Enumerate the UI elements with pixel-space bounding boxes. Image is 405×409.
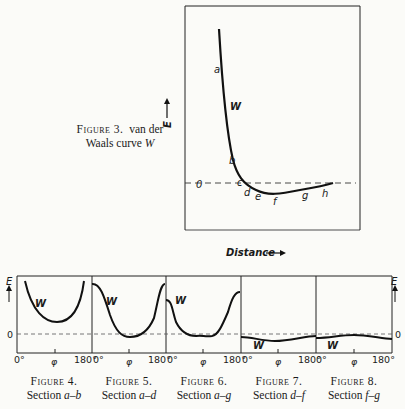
figure-number: Figure 7. — [240, 374, 318, 388]
section-range: a–g — [214, 389, 231, 401]
svg-text:W: W — [253, 340, 265, 351]
panel-caption-6: Figure 6. Section a–g — [165, 374, 243, 402]
svg-text:E: E — [162, 121, 173, 128]
svg-text:φ: φ — [51, 356, 58, 367]
svg-text:c: c — [237, 177, 243, 188]
svg-text:b: b — [229, 155, 235, 166]
figure-canvas: a W b c d e f g h 0 E Distance — [0, 0, 405, 409]
svg-text:0°: 0° — [316, 354, 327, 365]
figure-number: Figure 5. — [90, 374, 168, 388]
section-range: d–f — [290, 389, 305, 401]
svg-text:d: d — [244, 187, 251, 198]
svg-text:φ: φ — [126, 356, 133, 367]
svg-text:W: W — [175, 295, 187, 306]
section-word: Section — [102, 389, 137, 401]
section-word: Section — [328, 389, 363, 401]
svg-text:180°: 180° — [372, 354, 395, 365]
panel-caption-7: Figure 7. Section d–f — [240, 374, 318, 402]
svg-text:W: W — [327, 340, 339, 351]
figure3-plot: a W b c d e f g h 0 E Distance — [162, 6, 360, 258]
svg-text:0°: 0° — [14, 354, 25, 365]
panel-caption-8: Figure 8. Section f–g — [315, 374, 393, 402]
section-panels: W W W W W E 0 E 0 0° φ 180° 0° φ 180° 0°… — [6, 276, 401, 367]
svg-text:φ: φ — [351, 356, 358, 367]
svg-text:φ: φ — [275, 356, 282, 367]
svg-text:0: 0 — [395, 329, 401, 340]
svg-text:0°: 0° — [93, 354, 104, 365]
svg-text:W: W — [230, 101, 242, 112]
svg-text:0°: 0° — [242, 354, 253, 365]
svg-text:W: W — [35, 298, 47, 309]
svg-text:h: h — [322, 188, 328, 199]
figure-number: Figure 8. — [315, 374, 393, 388]
svg-text:g: g — [302, 190, 308, 201]
figure-number: Figure 4. — [15, 374, 93, 388]
svg-text:e: e — [255, 191, 261, 202]
section-word: Section — [177, 389, 212, 401]
svg-text:0: 0 — [196, 179, 202, 190]
svg-text:0°: 0° — [167, 354, 178, 365]
svg-text:W: W — [106, 296, 118, 307]
svg-text:f: f — [273, 196, 278, 207]
panel-caption-4: Figure 4. Section a–b — [15, 374, 93, 402]
svg-text:a: a — [214, 64, 220, 75]
svg-text:E: E — [391, 276, 398, 287]
section-range: a–d — [139, 389, 156, 401]
section-range: f–g — [365, 389, 380, 401]
section-word: Section — [27, 389, 62, 401]
svg-text:E: E — [6, 276, 13, 287]
svg-text:φ: φ — [200, 356, 207, 367]
section-range: a–b — [64, 389, 81, 401]
section-word: Section — [253, 389, 288, 401]
svg-text:0: 0 — [7, 329, 13, 340]
figure-number: Figure 6. — [165, 374, 243, 388]
panel-caption-5: Figure 5. Section a–d — [90, 374, 168, 402]
